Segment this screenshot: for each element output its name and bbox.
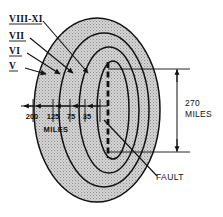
- isoseismal-figure: VIII-XI VII VI V 200 1: [0, 0, 223, 217]
- vertical-dim-value: 270: [185, 98, 200, 108]
- figure-canvas: VIII-XI VII VI V 200 1: [0, 0, 223, 217]
- vertical-dim-unit: MILES: [185, 109, 212, 119]
- dim-value-125: 125: [47, 112, 60, 121]
- dim-value-200: 200: [26, 112, 39, 121]
- fault-label: FAULT: [156, 172, 184, 182]
- dim-value-35: 35: [83, 112, 91, 121]
- dim-value-75: 75: [67, 112, 75, 121]
- intensity-label-vii: VII: [9, 31, 24, 41]
- intensity-label-viii-xi: VIII-XI: [9, 14, 43, 24]
- contour-ellipse-viii-xi: [97, 61, 129, 159]
- intensity-label-v: V: [9, 61, 16, 71]
- intensity-label-group: VIII-XI VII VI V: [9, 14, 43, 71]
- intensity-label-vi: VI: [9, 46, 20, 56]
- horizontal-dimension-unit: MILES: [44, 125, 69, 134]
